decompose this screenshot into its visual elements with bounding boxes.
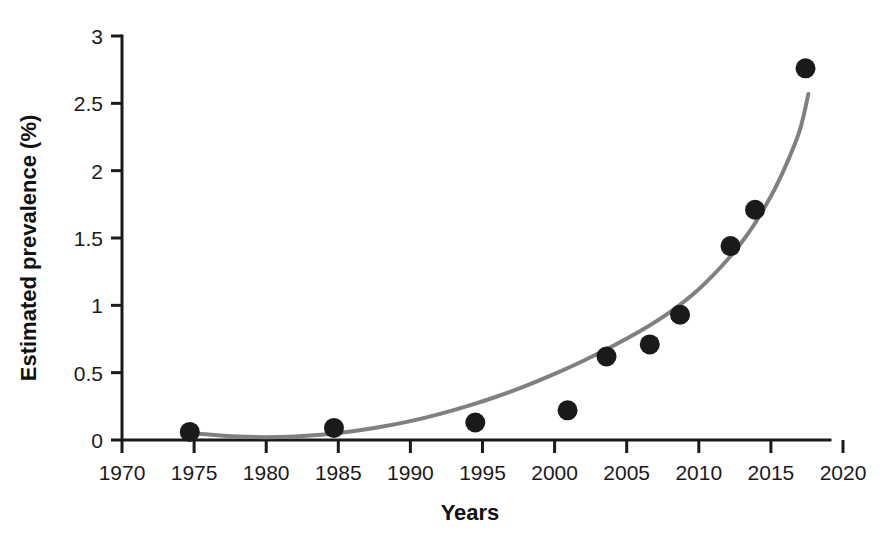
data-point-group bbox=[180, 58, 816, 442]
x-axis-tick-label: 2010 bbox=[675, 461, 722, 484]
data-point-marker bbox=[597, 347, 617, 367]
prevalence-scatter-chart: 00.511.522.53 19701975198019851990199520… bbox=[0, 0, 884, 551]
chart-figure: 00.511.522.53 19701975198019851990199520… bbox=[0, 0, 884, 551]
y-axis-tick-label: 1.5 bbox=[74, 227, 103, 250]
data-point-marker bbox=[558, 400, 578, 420]
data-point-marker bbox=[180, 422, 200, 442]
y-axis-tick-label: 2 bbox=[91, 160, 103, 183]
data-point-marker bbox=[324, 418, 344, 438]
x-axis-tick-label: 2015 bbox=[748, 461, 795, 484]
y-axis-tick-label: 0.5 bbox=[74, 362, 103, 385]
x-axis-tick-label: 2020 bbox=[820, 461, 867, 484]
x-axis-tick-label: 1980 bbox=[243, 461, 290, 484]
data-point-marker bbox=[670, 305, 690, 325]
data-point-marker bbox=[721, 236, 741, 256]
y-axis-tick-group: 00.511.522.53 bbox=[74, 25, 122, 452]
x-axis-tick-label: 1990 bbox=[387, 461, 434, 484]
y-axis-tick-label: 2.5 bbox=[74, 92, 103, 115]
x-axis-tick-label: 1985 bbox=[315, 461, 362, 484]
data-point-marker bbox=[796, 58, 816, 78]
x-axis-tick-label: 2000 bbox=[531, 461, 578, 484]
x-axis-tick-label: 1995 bbox=[459, 461, 506, 484]
y-axis-title: Estimated prevalence (%) bbox=[16, 115, 41, 382]
y-axis-tick-label: 1 bbox=[91, 294, 103, 317]
fitted-trend-curve bbox=[190, 94, 809, 437]
x-axis-tick-label: 1975 bbox=[171, 461, 218, 484]
data-point-marker bbox=[465, 412, 485, 432]
data-point-marker bbox=[745, 200, 765, 220]
y-axis-tick-label: 3 bbox=[91, 25, 103, 48]
data-point-marker bbox=[640, 334, 660, 354]
x-axis-tick-label: 2005 bbox=[603, 461, 650, 484]
x-axis-tick-label: 1970 bbox=[99, 461, 146, 484]
x-axis-title: Years bbox=[441, 500, 500, 525]
y-axis-tick-label: 0 bbox=[91, 429, 103, 452]
x-axis-tick-group: 1970197519801985199019952000200520102015… bbox=[99, 440, 867, 484]
